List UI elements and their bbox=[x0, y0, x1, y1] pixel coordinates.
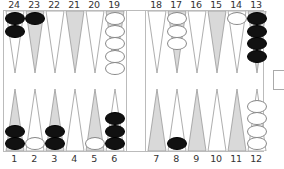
point-triangle-icon bbox=[207, 11, 227, 81]
point-label-14: 14 bbox=[226, 0, 246, 10]
point-label-15: 15 bbox=[206, 0, 226, 10]
point-22[interactable] bbox=[45, 11, 65, 81]
point-triangle-icon bbox=[227, 81, 247, 151]
point-triangle-icon bbox=[65, 11, 85, 81]
white-checker[interactable] bbox=[167, 12, 187, 25]
point-label-5: 5 bbox=[84, 153, 104, 164]
point-triangle-icon bbox=[187, 11, 207, 81]
point-label-3: 3 bbox=[44, 153, 64, 164]
point-8[interactable] bbox=[167, 81, 187, 151]
black-checker[interactable] bbox=[5, 12, 25, 25]
point-19[interactable] bbox=[105, 11, 125, 81]
point-6[interactable] bbox=[105, 81, 125, 151]
black-checker[interactable] bbox=[105, 125, 125, 138]
point-label-10: 10 bbox=[206, 153, 226, 164]
point-5[interactable] bbox=[85, 81, 105, 151]
bear-off-tray[interactable] bbox=[273, 70, 284, 90]
white-checker[interactable] bbox=[227, 12, 247, 25]
point-label-12: 12 bbox=[246, 153, 266, 164]
point-label-9: 9 bbox=[186, 153, 206, 164]
point-triangle-icon bbox=[207, 81, 227, 151]
point-label-20: 20 bbox=[84, 0, 104, 10]
point-23[interactable] bbox=[25, 11, 45, 81]
white-checker[interactable] bbox=[167, 37, 187, 50]
point-12[interactable] bbox=[247, 81, 267, 151]
white-checker[interactable] bbox=[247, 112, 267, 125]
point-16[interactable] bbox=[187, 11, 207, 81]
point-label-4: 4 bbox=[64, 153, 84, 164]
white-checker[interactable] bbox=[105, 50, 125, 63]
black-checker[interactable] bbox=[45, 125, 65, 138]
point-20[interactable] bbox=[85, 11, 105, 81]
point-label-7: 7 bbox=[146, 153, 166, 164]
black-checker[interactable] bbox=[105, 137, 125, 150]
point-label-17: 17 bbox=[166, 0, 186, 10]
black-checker[interactable] bbox=[5, 25, 25, 38]
black-checker[interactable] bbox=[247, 12, 267, 25]
point-triangle-icon bbox=[187, 81, 207, 151]
board-bar[interactable] bbox=[126, 11, 146, 151]
point-7[interactable] bbox=[147, 81, 167, 151]
point-label-2: 2 bbox=[24, 153, 44, 164]
point-label-8: 8 bbox=[166, 153, 186, 164]
point-4[interactable] bbox=[65, 81, 85, 151]
white-checker[interactable] bbox=[247, 100, 267, 113]
white-checker[interactable] bbox=[85, 137, 105, 150]
point-label-22: 22 bbox=[44, 0, 64, 10]
point-triangle-icon bbox=[147, 81, 167, 151]
point-label-11: 11 bbox=[226, 153, 246, 164]
point-label-18: 18 bbox=[146, 0, 166, 10]
black-checker[interactable] bbox=[167, 137, 187, 150]
white-checker[interactable] bbox=[247, 137, 267, 150]
point-9[interactable] bbox=[187, 81, 207, 151]
white-checker[interactable] bbox=[25, 137, 45, 150]
black-checker[interactable] bbox=[247, 50, 267, 63]
black-checker[interactable] bbox=[5, 125, 25, 138]
backgammon-board bbox=[3, 10, 264, 152]
black-checker[interactable] bbox=[25, 12, 45, 25]
point-triangle-icon bbox=[147, 11, 167, 81]
point-label-1: 1 bbox=[4, 153, 24, 164]
black-checker[interactable] bbox=[247, 25, 267, 38]
black-checker[interactable] bbox=[5, 137, 25, 150]
white-checker[interactable] bbox=[167, 25, 187, 38]
point-21[interactable] bbox=[65, 11, 85, 81]
point-label-24: 24 bbox=[4, 0, 24, 10]
white-checker[interactable] bbox=[105, 25, 125, 38]
point-24[interactable] bbox=[5, 11, 25, 81]
white-checker[interactable] bbox=[105, 12, 125, 25]
point-17[interactable] bbox=[167, 11, 187, 81]
point-15[interactable] bbox=[207, 11, 227, 81]
point-label-21: 21 bbox=[64, 0, 84, 10]
point-triangle-icon bbox=[45, 11, 65, 81]
black-checker[interactable] bbox=[45, 137, 65, 150]
point-triangle-icon bbox=[65, 81, 85, 151]
point-triangle-icon bbox=[85, 11, 105, 81]
black-checker[interactable] bbox=[105, 112, 125, 125]
point-10[interactable] bbox=[207, 81, 227, 151]
point-label-16: 16 bbox=[186, 0, 206, 10]
white-checker[interactable] bbox=[247, 125, 267, 138]
point-1[interactable] bbox=[5, 81, 25, 151]
point-18[interactable] bbox=[147, 11, 167, 81]
point-13[interactable] bbox=[247, 11, 267, 81]
point-14[interactable] bbox=[227, 11, 247, 81]
point-label-23: 23 bbox=[24, 0, 44, 10]
point-11[interactable] bbox=[227, 81, 247, 151]
point-3[interactable] bbox=[45, 81, 65, 151]
point-label-19: 19 bbox=[104, 0, 124, 10]
point-label-13: 13 bbox=[246, 0, 266, 10]
white-checker[interactable] bbox=[105, 37, 125, 50]
point-label-6: 6 bbox=[104, 153, 124, 164]
white-checker[interactable] bbox=[105, 62, 125, 75]
point-2[interactable] bbox=[25, 81, 45, 151]
black-checker[interactable] bbox=[247, 37, 267, 50]
